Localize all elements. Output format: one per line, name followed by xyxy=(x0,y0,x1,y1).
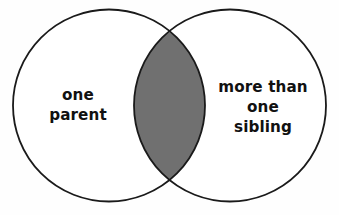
set-label-right: more than one sibling xyxy=(204,78,322,137)
venn-diagram: one parent more than one sibling xyxy=(0,0,339,215)
set-label-left: one parent xyxy=(20,86,136,126)
